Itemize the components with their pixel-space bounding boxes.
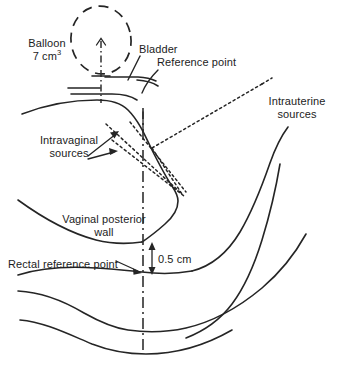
intrauterine-sources-label: Intrauterine sources: [258, 95, 336, 121]
balloon-label: Balloon 7 cm3: [14, 37, 80, 63]
intravaginal-sources-label: Intravaginal sources: [27, 134, 111, 160]
vaginal-wall-label-line1: Vaginal posterior: [62, 213, 145, 225]
balloon-volume-value: 7 cm: [33, 50, 57, 62]
intravaginal-label-line1: Intravaginal: [40, 134, 98, 146]
intravaginal-label-line2: sources: [49, 147, 88, 159]
intrauterine-source-icon: [152, 84, 262, 194]
brachytherapy-diagram: Balloon 7 cm3 Bladder Reference point In…: [0, 0, 339, 366]
intrauterine-leader-line-icon: [262, 78, 272, 84]
vaginal-wall-label-line2: wall: [94, 226, 113, 238]
intrauterine-label-line2: sources: [277, 108, 316, 120]
distance-measure-label: 0.5 cm: [158, 253, 192, 266]
intrauterine-label-line1: Intrauterine: [269, 95, 326, 107]
bladder-label: Bladder: [139, 43, 178, 56]
balloon-volume-exponent: 3: [57, 48, 61, 57]
dimension-arrow-icon: [149, 242, 156, 275]
intravaginal-source-icon: [106, 122, 186, 196]
balloon-label-line1: Balloon: [28, 37, 65, 49]
bladder-reference-point-label: Reference point: [157, 56, 236, 69]
rectal-reference-arrow-icon: [116, 261, 142, 275]
rectal-reference-point-label: Rectal reference point: [8, 258, 118, 271]
vaginal-posterior-wall-label: Vaginal posterior wall: [52, 213, 156, 239]
